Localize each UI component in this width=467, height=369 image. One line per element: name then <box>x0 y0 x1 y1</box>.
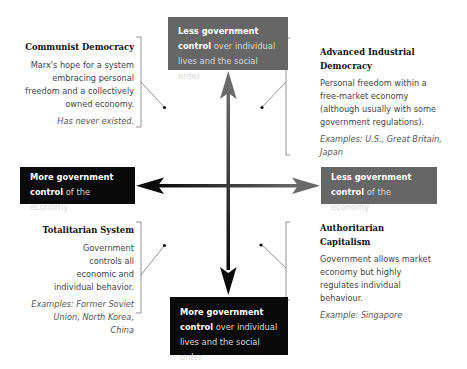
quadrant-example: Examples: Former Soviet Union, North Kor… <box>30 298 134 337</box>
quadrant-bottom-right: Authoritarian Capitalism Government allo… <box>320 222 440 322</box>
quadrant-body: Marx's hope for a system embracing perso… <box>22 59 134 111</box>
dot-top-right <box>260 106 263 109</box>
quadrant-body: Personal freedom within a free-market ec… <box>320 77 438 129</box>
quadrant-title: Totalitarian System <box>30 224 134 238</box>
axis-right-box: Less government control of the economy <box>321 167 437 204</box>
vertical-axis <box>220 71 237 295</box>
quadrant-example: Has never existed. <box>22 115 134 128</box>
quadrant-top-right: Advanced Industrial Democracy Personal f… <box>320 46 460 159</box>
quadrant-example: Examples: U.S., Great Britain, Japan <box>320 133 460 159</box>
arrow-down-icon <box>220 267 237 295</box>
dot-bottom-left <box>163 244 166 247</box>
axis-bottom-box: More government control over individual … <box>170 297 288 355</box>
axis-top-box: Less government control over individual … <box>168 17 288 70</box>
quadrant-bottom-left: Totalitarian System Government controls … <box>30 224 134 337</box>
quadrant-title: Authoritarian Capitalism <box>320 222 400 249</box>
quadrant-body: Government controls all economic and ind… <box>30 242 134 294</box>
quadrant-body: Government allows market economy but hig… <box>320 253 440 305</box>
axis-left-box: More government control of the economy <box>20 167 135 204</box>
quadrant-title: Communist Democracy <box>22 41 134 55</box>
dot-bottom-right <box>259 243 262 246</box>
quadrant-top-left: Communist Democracy Marx's hope for a sy… <box>22 41 134 128</box>
quadrant-example: Example: Singapore <box>320 309 440 322</box>
dot-top-left <box>163 106 166 109</box>
quadrant-title: Advanced Industrial Democracy <box>320 46 430 73</box>
bracket-top-left <box>136 37 141 127</box>
